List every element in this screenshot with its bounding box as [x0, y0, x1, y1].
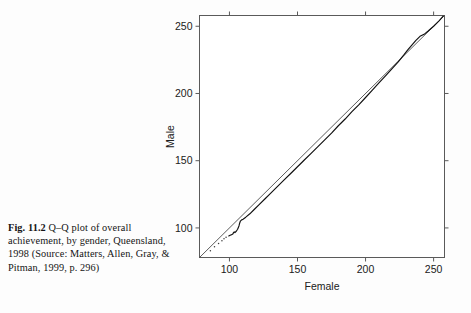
- figure-number: Fig. 11.2: [8, 222, 46, 233]
- y-tick-label: 150: [175, 154, 193, 166]
- x-axis-ticks-bottom: [229, 258, 433, 262]
- figure-page: Fig. 11.2 Q–Q plot of overall achievemen…: [0, 0, 471, 313]
- qq-point: [210, 250, 212, 252]
- x-tick-label: 150: [289, 263, 307, 275]
- y-axis-tick-labels: 100150200250: [175, 20, 193, 234]
- qq-plot-svg: 100150200250 100150200250 Female Male: [160, 0, 471, 313]
- x-tick-label: 100: [221, 263, 239, 275]
- x-axis-ticks-top: [229, 12, 433, 16]
- qq-point: [218, 243, 220, 245]
- y-axis-ticks-left: [196, 26, 200, 228]
- qq-point: [214, 246, 216, 248]
- qq-plot: 100150200250 100150200250 Female Male: [160, 0, 471, 313]
- qq-point: [223, 238, 225, 240]
- y-axis-ticks-right: [445, 26, 449, 228]
- x-tick-label: 200: [357, 263, 375, 275]
- figure-caption: Fig. 11.2 Q–Q plot of overall achievemen…: [8, 221, 174, 274]
- qq-point: [225, 237, 227, 239]
- x-axis-tick-labels: 100150200250: [221, 263, 443, 275]
- y-tick-label: 250: [175, 20, 193, 32]
- y-tick-label: 200: [175, 87, 193, 99]
- x-tick-label: 250: [425, 263, 443, 275]
- y-tick-label: 100: [175, 222, 193, 234]
- x-axis-title: Female: [304, 280, 339, 292]
- y-axis-title: Male: [164, 125, 176, 148]
- qq-point: [221, 240, 223, 242]
